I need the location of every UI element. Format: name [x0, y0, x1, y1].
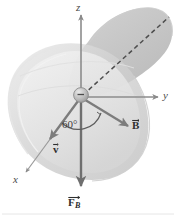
vector-label-FB: FB	[68, 197, 80, 210]
vector-diagram-svg	[0, 0, 176, 219]
plane-blob	[8, 8, 173, 181]
vector-label-FB-subscript: B	[75, 201, 80, 210]
vector-label-v: v	[53, 144, 59, 155]
axis-label-y: y	[163, 90, 168, 101]
vector-label-FB-text: F	[68, 196, 75, 208]
angle-label-60: 60°	[62, 119, 77, 130]
charged-particle	[74, 88, 89, 103]
axis-label-x: x	[13, 174, 18, 185]
vector-label-v-text: v	[53, 143, 59, 155]
vector-label-B-text: B	[132, 119, 139, 131]
figure-canvas: z y x v B FB 60°	[0, 0, 176, 219]
axis-label-z: z	[76, 2, 80, 13]
vector-label-B: B	[132, 120, 139, 131]
